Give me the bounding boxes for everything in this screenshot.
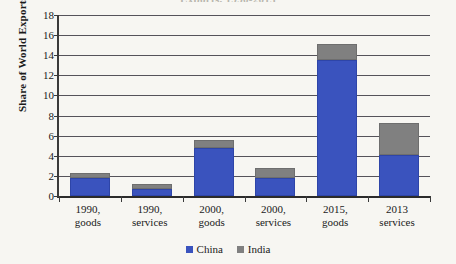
- bar-segment-india[interactable]: [379, 123, 419, 155]
- x-axis-tick-mark: [245, 196, 246, 202]
- y-axis-tick-label: 14: [14, 50, 54, 61]
- y-axis-tick-mark: [54, 55, 59, 56]
- plot-area: [57, 15, 430, 198]
- y-axis-tick-label: 18: [14, 10, 54, 21]
- bar-segment-china[interactable]: [70, 178, 110, 196]
- y-axis-tick-mark: [54, 75, 59, 76]
- y-axis-tick-mark: [54, 35, 59, 36]
- legend-label: China: [197, 243, 223, 255]
- y-axis-tick-label: 0: [14, 191, 54, 202]
- bar-segment-india[interactable]: [317, 44, 357, 60]
- y-axis-tick-label: 2: [14, 171, 54, 182]
- bar-segment-china[interactable]: [255, 178, 295, 196]
- y-axis-tick-mark: [54, 116, 59, 117]
- gridline: [59, 176, 430, 177]
- gridline: [59, 15, 430, 16]
- bar-segment-india[interactable]: [255, 168, 295, 178]
- gridline: [59, 136, 430, 137]
- y-axis-tick-labels: 181614121086420: [14, 0, 54, 264]
- x-axis-tick-label-line: services: [360, 216, 434, 229]
- x-axis-tick-mark: [306, 196, 307, 202]
- bar-stack[interactable]: [70, 173, 110, 196]
- x-axis-tick-label-line: 2013: [360, 203, 434, 216]
- y-axis-tick-mark: [54, 95, 59, 96]
- bar-segment-china[interactable]: [132, 189, 172, 196]
- bar-stack[interactable]: [132, 184, 172, 196]
- bar-segment-china[interactable]: [379, 155, 419, 196]
- chart-legend: ChinaIndia: [0, 243, 456, 255]
- chart-container: Share of World Exports 181614121086420 1…: [0, 0, 456, 264]
- y-axis-tick-label: 8: [14, 111, 54, 122]
- bar-stack[interactable]: [317, 44, 357, 196]
- x-axis-tick-labels: 1990,goods1990,services2000,goods2000,se…: [57, 203, 428, 237]
- y-axis-tick-label: 4: [14, 151, 54, 162]
- gridline: [59, 156, 430, 157]
- gridline: [59, 35, 430, 36]
- bar-segment-china[interactable]: [194, 148, 234, 196]
- legend-swatch-icon: [186, 246, 193, 253]
- x-axis-tick-mark: [183, 196, 184, 202]
- gridline: [59, 116, 430, 117]
- x-axis-tick-mark: [121, 196, 122, 202]
- bar-stack[interactable]: [255, 168, 295, 196]
- gridline: [59, 75, 430, 76]
- y-axis-tick-label: 10: [14, 90, 54, 101]
- y-axis-tick-mark: [54, 136, 59, 137]
- x-axis-tick-mark: [368, 196, 369, 202]
- y-axis-tick-mark: [54, 15, 59, 16]
- bar-segment-china[interactable]: [317, 60, 357, 196]
- legend-label: India: [248, 243, 271, 255]
- y-axis-tick-mark: [54, 176, 59, 177]
- y-axis-tick-label: 16: [14, 30, 54, 41]
- x-axis-tick-mark: [430, 196, 431, 202]
- y-axis-tick-label: 6: [14, 131, 54, 142]
- bar-segment-india[interactable]: [194, 140, 234, 148]
- bar-stack[interactable]: [379, 123, 419, 196]
- x-axis-tick-mark: [59, 196, 60, 202]
- bar-stack[interactable]: [194, 140, 234, 196]
- legend-item-india[interactable]: India: [237, 243, 271, 255]
- gridline: [59, 95, 430, 96]
- x-axis-tick-label: 2013services: [360, 203, 434, 229]
- legend-swatch-icon: [237, 246, 244, 253]
- y-axis-tick-mark: [54, 156, 59, 157]
- gridline: [59, 55, 430, 56]
- legend-item-china[interactable]: China: [186, 243, 223, 255]
- y-axis-tick-label: 12: [14, 70, 54, 81]
